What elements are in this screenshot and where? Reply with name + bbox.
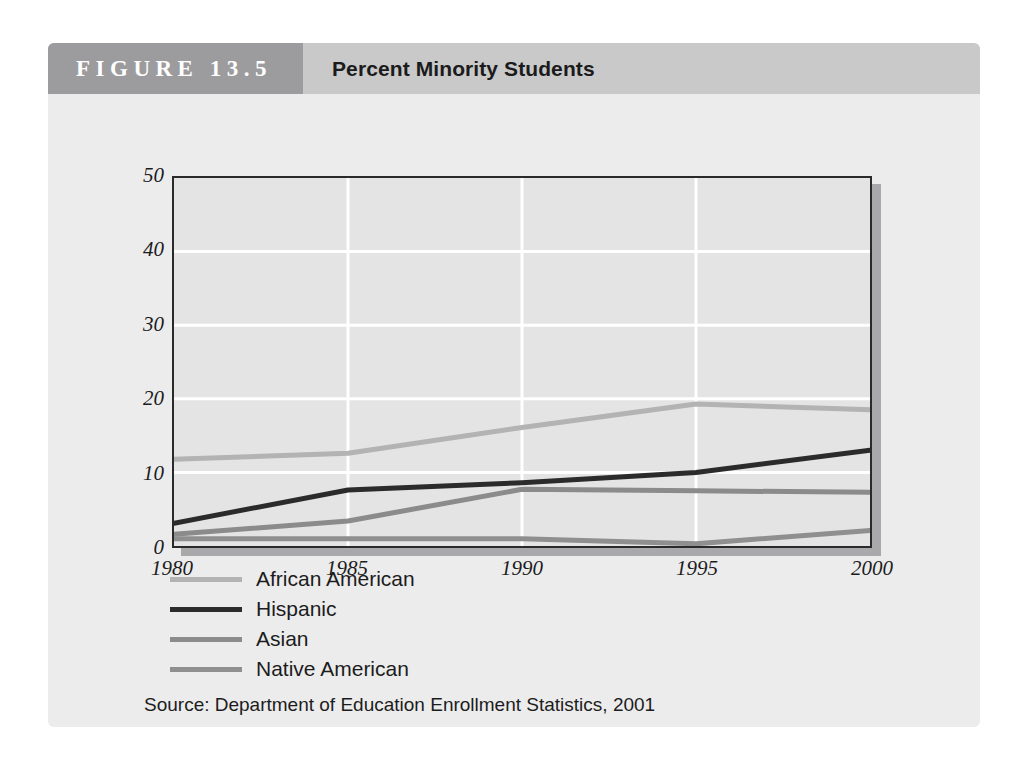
legend-swatch-african-american — [170, 577, 242, 582]
chart-legend: African AmericanHispanicAsianNative Amer… — [170, 564, 730, 684]
legend-swatch-hispanic — [170, 607, 242, 612]
y-axis-tick-40: 40 — [110, 237, 164, 262]
y-axis-tick-30: 30 — [110, 312, 164, 337]
figure-header-band: FIGURE 13.5 Percent Minority Students — [48, 43, 980, 94]
source-note: Source: Department of Education Enrollme… — [144, 694, 655, 716]
legend-item-hispanic[interactable]: Hispanic — [170, 594, 730, 624]
legend-label-asian: Asian — [256, 627, 309, 651]
legend-label-african-american: African American — [256, 567, 415, 591]
figure-card: FIGURE 13.5 Percent Minority Students 01… — [48, 43, 980, 727]
y-axis-tick-10: 10 — [110, 461, 164, 486]
figure-number-label: FIGURE 13.5 — [48, 56, 272, 82]
y-axis-tick-50: 50 — [110, 163, 164, 188]
plot-svg — [174, 178, 870, 546]
x-axis-tick-2000: 2000 — [827, 556, 917, 581]
figure-number-block: FIGURE 13.5 — [48, 43, 303, 94]
legend-label-native-american: Native American — [256, 657, 409, 681]
legend-item-african-american[interactable]: African American — [170, 564, 730, 594]
legend-swatch-native-american — [170, 667, 242, 672]
chart-region: 01020304050 19801985199019952000 African… — [48, 94, 980, 727]
figure-title: Percent Minority Students — [332, 43, 595, 94]
legend-item-asian[interactable]: Asian — [170, 624, 730, 654]
legend-item-native-american[interactable]: Native American — [170, 654, 730, 684]
legend-label-hispanic: Hispanic — [256, 597, 337, 621]
y-axis-tick-20: 20 — [110, 386, 164, 411]
legend-swatch-asian — [170, 637, 242, 642]
plot-area — [172, 176, 872, 548]
